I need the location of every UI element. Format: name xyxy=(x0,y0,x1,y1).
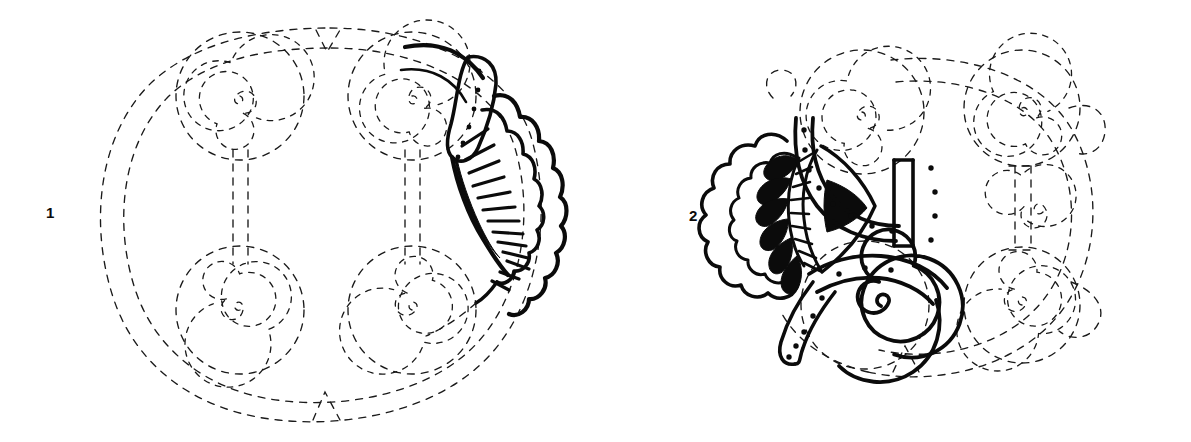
rim-notch-bottom xyxy=(313,392,340,420)
figure-2-rim-lobe-upper xyxy=(1069,105,1105,153)
spiral-bottom-right xyxy=(330,242,479,393)
figure-2-solid-ornament xyxy=(699,118,982,382)
tail-band-left xyxy=(780,282,813,364)
figure-2-top-hook xyxy=(767,70,796,98)
spiral-bottom-left xyxy=(160,241,316,399)
spiral-top-right xyxy=(945,20,1101,179)
spiral-top-left xyxy=(170,10,326,168)
stem-right xyxy=(405,150,420,264)
stem-left xyxy=(233,150,248,264)
figure-1-stems xyxy=(233,150,420,264)
figure-2-inner-swirl xyxy=(976,138,1089,249)
figure-1-label: 1 xyxy=(46,205,54,220)
stem-side-dots xyxy=(928,165,937,242)
black-triangle-inlay xyxy=(824,180,867,232)
plate-canvas: 1 xyxy=(0,0,1191,442)
figure-2-drawing xyxy=(591,0,1191,442)
figure-1-spiral-bosses xyxy=(160,10,490,399)
figure-2-rim-inner-right xyxy=(879,81,1072,354)
figure-1-drawing xyxy=(0,0,620,442)
figure-2-label: 2 xyxy=(689,208,697,223)
fan-lower-tip xyxy=(476,282,497,303)
spiral-top-left xyxy=(799,34,938,176)
figure-1-fan-ornament xyxy=(401,45,567,336)
